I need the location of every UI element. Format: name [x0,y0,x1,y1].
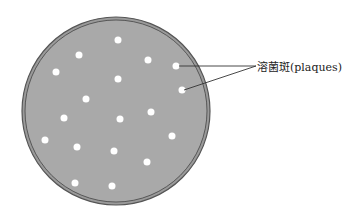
plaque [72,180,79,187]
plaque [111,148,118,155]
plaque [115,76,122,83]
plaque [76,52,83,59]
plaques-label: 溶菌斑(plaques) [257,58,342,74]
plaque [83,96,90,103]
agar-surface [25,20,207,202]
plaque [109,183,116,190]
plaque [42,137,49,144]
plaque [173,63,180,70]
plaque [74,144,81,151]
plaque [148,109,155,116]
plaque [169,133,176,140]
plaque [117,116,124,123]
plaque [144,159,151,166]
plaque [115,37,122,44]
plaque [53,69,60,76]
petri-dish-diagram [0,0,355,220]
plaque [61,115,68,122]
plaque [145,57,152,64]
